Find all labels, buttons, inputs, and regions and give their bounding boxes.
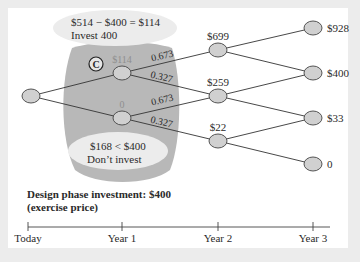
label-year3-a: $928 xyxy=(327,22,350,34)
bottom-callout-line1: $168 < $400 xyxy=(90,140,146,152)
top-callout-line2: Invest 400 xyxy=(71,29,118,41)
label-year1-up: $114 xyxy=(112,54,132,65)
branch xyxy=(218,73,313,96)
label-year2-bot: $22 xyxy=(210,121,227,133)
node-year2-mid xyxy=(209,89,227,103)
timeline-label-today: Today xyxy=(14,232,42,244)
badge-c-label: C xyxy=(92,59,99,70)
label-year3-d: 0 xyxy=(327,158,333,170)
bottom-callout-line2: Don’t invest xyxy=(87,153,142,165)
timeline-label-year2: Year 2 xyxy=(204,232,233,244)
branch xyxy=(218,96,313,118)
caption-line1: Design phase investment: $400 xyxy=(27,188,171,200)
top-callout-line1: $514 − $400 = $114 xyxy=(71,16,160,28)
branch xyxy=(218,28,313,50)
label-year1-down: 0 xyxy=(120,99,125,110)
node-year2-bot xyxy=(209,134,227,148)
branch xyxy=(218,141,313,164)
branch xyxy=(218,118,313,141)
node-year3-a xyxy=(304,21,322,35)
label-year2-top: $699 xyxy=(207,30,230,42)
node-today xyxy=(22,89,40,103)
label-year3-b: $400 xyxy=(327,67,350,79)
branch xyxy=(218,50,313,73)
label-year3-c: $33 xyxy=(327,112,344,124)
decision-tree: C $514 − $400 = $114 Invest 400 $168 < $… xyxy=(0,0,360,262)
node-year1-up xyxy=(113,66,131,80)
node-year1-down xyxy=(113,111,131,125)
node-year2-top xyxy=(209,43,227,57)
label-year2-mid: $259 xyxy=(207,76,230,88)
timeline-label-year3: Year 3 xyxy=(299,232,328,244)
timeline-label-year1: Year 1 xyxy=(108,232,137,244)
node-year3-d xyxy=(304,157,322,171)
node-year3-b xyxy=(304,66,322,80)
node-year3-c xyxy=(304,111,322,125)
caption-line2: (exercise price) xyxy=(27,201,98,214)
